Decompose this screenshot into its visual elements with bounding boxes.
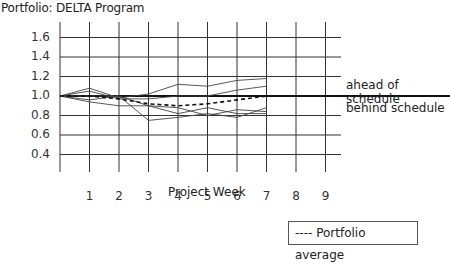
series-line (60, 96, 267, 114)
y-tick-label: 0.8 (10, 108, 50, 122)
y-tick-label: 1.0 (10, 88, 50, 102)
x-tick-label: 7 (257, 189, 277, 203)
behind-schedule-label: behind schedule (346, 101, 445, 115)
y-tick-label: 1.6 (10, 30, 50, 44)
x-tick-label: 3 (139, 189, 159, 203)
x-tick-label: 8 (286, 189, 306, 203)
x-tick-label: 2 (109, 189, 129, 203)
legend-portfolio-average: ---- Portfolio average (295, 226, 366, 262)
x-tick-label: 1 (80, 189, 100, 203)
series-line (60, 96, 267, 116)
y-tick-label: 0.6 (10, 127, 50, 141)
y-tick-label: 0.4 (10, 147, 50, 161)
x-axis-label: Project Week (168, 185, 246, 199)
legend: ---- Portfolio average (288, 221, 418, 245)
x-tick-label: 9 (316, 189, 336, 203)
y-tick-label: 1.2 (10, 69, 50, 83)
y-tick-label: 1.4 (10, 49, 50, 63)
